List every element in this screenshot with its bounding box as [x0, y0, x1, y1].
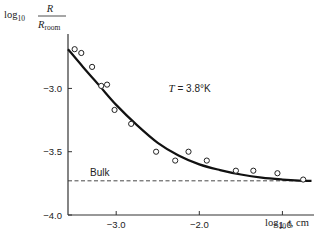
data-point — [104, 82, 109, 87]
ylabel-numerator: R — [46, 3, 54, 14]
axes — [68, 34, 314, 215]
chart: −3.0−2.0−1.0−3.0−3.5−4.0 log10 R Rroom l… — [0, 0, 332, 243]
y-axis-label: log10 R Rroom — [4, 3, 66, 32]
data-point — [173, 158, 178, 163]
xlabel-sub: 10 — [278, 222, 286, 231]
fit-curve-group — [68, 49, 312, 181]
y-tick-label: −3.0 — [43, 83, 62, 94]
y-tick-label: −3.5 — [43, 146, 62, 157]
ylabel-log: log — [4, 9, 18, 20]
data-point — [301, 177, 306, 182]
y-tick-label: −4.0 — [43, 210, 62, 221]
data-point — [112, 107, 117, 112]
data-point — [233, 168, 238, 173]
svg-text:Rroom: Rroom — [37, 19, 60, 32]
data-point — [99, 83, 104, 88]
data-point — [153, 149, 158, 154]
ticks: −3.0−2.0−1.0−3.0−3.5−4.0 — [43, 83, 292, 230]
data-point — [90, 64, 95, 69]
svg-text:log10: log10 — [4, 9, 25, 23]
xlabel-log: log — [265, 217, 279, 228]
data-point — [129, 121, 134, 126]
bulk-label: Bulk — [90, 167, 110, 178]
x-tick-label: −2.0 — [190, 219, 209, 230]
data-point — [275, 171, 280, 176]
xlabel-unit: , cm — [291, 217, 309, 228]
ylabel-den-sub: room — [44, 23, 60, 32]
data-point — [186, 149, 191, 154]
fit-curve — [68, 49, 312, 181]
ylabel-sub: 10 — [17, 14, 25, 23]
x-tick-label: −3.0 — [107, 219, 126, 230]
temperature-annotation: T = 3.8°K — [169, 82, 211, 94]
data-point — [79, 50, 84, 55]
annotation-value: = 3.8°K — [175, 83, 211, 94]
data-points — [72, 47, 306, 183]
data-point — [72, 47, 77, 52]
data-point — [204, 158, 209, 163]
data-point — [251, 168, 256, 173]
